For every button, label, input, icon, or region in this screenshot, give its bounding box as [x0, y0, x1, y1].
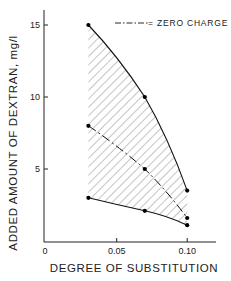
y-axis-label: ADDED AMOUNT OF DEXTRAN, mg/l [7, 35, 19, 250]
x-axis-label: DEGREE OF SUBSTITUTION [50, 262, 218, 274]
point-upper-003 [86, 23, 90, 27]
x-tick-label-0: 0 [42, 246, 47, 256]
y-tick-label-5: 5 [35, 164, 40, 174]
point-zero-003 [86, 124, 90, 128]
point-zero-007 [143, 167, 147, 171]
y-tick-label-10: 10 [30, 92, 40, 102]
point-zero-010 [185, 216, 189, 220]
shaded-region [88, 25, 187, 225]
point-lower-003 [86, 196, 90, 200]
x-tick-label-010: 0.10 [178, 246, 196, 256]
y-tick-label-15: 15 [30, 20, 40, 30]
point-upper-010 [185, 189, 189, 193]
legend-label: ZERO CHARGE [157, 18, 228, 28]
point-lower-010 [185, 223, 189, 227]
point-lower-007 [143, 209, 147, 213]
legend-equals: = [148, 18, 154, 28]
legend: = ZERO CHARGE [115, 18, 228, 28]
point-upper-007 [143, 95, 147, 99]
chart: 15 10 5 0 0.05 0.10 = ZERO CHARGE DEGREE… [0, 0, 231, 281]
x-tick-label-005: 0.05 [108, 246, 126, 256]
